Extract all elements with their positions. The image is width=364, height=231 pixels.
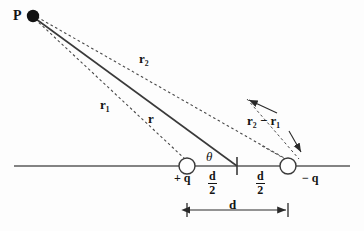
label-negative-charge: − q — [302, 172, 319, 184]
label-r: r — [148, 112, 154, 125]
label-positive-charge: + q — [174, 172, 191, 184]
diagram-canvas — [0, 0, 364, 231]
label-separation-d: d — [229, 198, 236, 211]
half-separation-right-denominator: 2 — [256, 184, 265, 197]
label-r2-minus-r1: r₂ − r₁ — [247, 114, 280, 127]
label-half-separation-left: d 2 — [208, 170, 217, 196]
ray-r-solid — [36, 19, 237, 166]
half-separation-left-denominator: 2 — [208, 184, 217, 197]
label-theta: θ — [206, 150, 212, 163]
leader-arrow-upper — [249, 100, 277, 113]
label-r1: r₁ — [100, 98, 110, 111]
perpendicular-construction-line — [247, 99, 299, 159]
label-half-separation-right: d 2 — [256, 170, 265, 196]
negative-charge-circle — [280, 158, 296, 174]
ray-r1-dashed — [35, 19, 185, 159]
half-separation-right-numerator: d — [256, 170, 265, 184]
label-point-p: P — [13, 9, 22, 23]
dipole-diagram: P r₂ r₁ r θ r₂ − r₁ + q − q d d 2 d 2 — [0, 0, 364, 231]
leader-arrow-lower — [289, 131, 301, 152]
half-separation-left-numerator: d — [208, 170, 217, 184]
label-r2: r₂ — [139, 52, 149, 65]
point-p-marker — [27, 10, 39, 22]
segment-r2-minus-r1 — [262, 146, 287, 160]
